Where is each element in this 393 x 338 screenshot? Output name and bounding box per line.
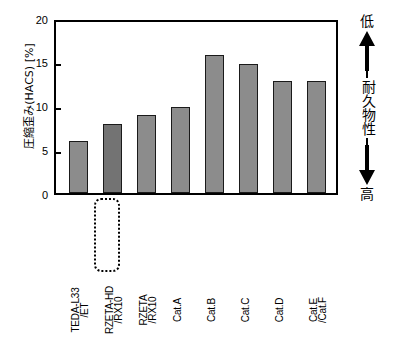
x-tick-label-rzeta-hd-rx10: RZETA-HD /RX10	[105, 273, 123, 338]
x-tick-label-cat-d: Cat.D	[275, 273, 293, 338]
bar-rzeta-hd-rx10	[103, 124, 122, 193]
x-tick-label-cat-c: Cat.C	[241, 273, 259, 338]
y-tick-label-0: 0	[22, 190, 48, 200]
annotation-top-label: 低	[344, 14, 390, 29]
x-tick-label-teda-l33-et: TEDA-L33 /ET	[71, 273, 89, 338]
bar-cat-c	[239, 64, 258, 193]
x-tick-label-cat-e-cat-f: Cat.E /Cat.F	[309, 273, 327, 338]
bar-cat-d	[273, 81, 292, 193]
down-arrow-icon	[357, 145, 377, 187]
annotation-vertical-holder: 耐久物性	[344, 71, 390, 145]
y-tick-label-20: 20	[22, 15, 48, 25]
y-tick-label-10: 10	[22, 102, 48, 112]
x-tick-label-rzeta-rx10: RZETA /RX10	[139, 273, 157, 338]
y-tick-mark-15	[56, 64, 61, 66]
up-arrow-icon	[357, 29, 377, 71]
plot-inner	[56, 22, 336, 193]
bar-cat-a	[171, 107, 190, 193]
bar-rzeta-rx10	[137, 115, 156, 193]
annotation-middle: 耐久物性	[344, 71, 390, 145]
y-tick-label-5: 5	[22, 146, 48, 156]
bar-cat-b	[205, 55, 224, 193]
annotation-bottom-label: 高	[344, 187, 390, 202]
annotation-vertical-label: 耐久物性	[360, 78, 375, 138]
x-tick-label-cat-a: Cat.A	[173, 273, 191, 338]
x-tick-label-cat-b: Cat.B	[207, 273, 225, 338]
x-axis-tick-labels: TEDA-L33 /ET RZETA-HD /RX10 RZETA /RX10 …	[54, 197, 338, 276]
y-tick-mark-10	[56, 108, 61, 110]
plot-area	[54, 20, 338, 195]
highlight-box-rzeta-hd-rx10	[94, 198, 120, 272]
durability-annotation: 低 耐久物性 高	[344, 14, 390, 210]
y-tick-mark-5	[56, 152, 61, 154]
y-axis-tick-labels: 20 15 10 5 0	[20, 0, 48, 276]
bar-teda-l33-et	[69, 141, 88, 193]
bar-cat-e-cat-f	[307, 81, 326, 193]
y-tick-label-15: 15	[22, 58, 48, 68]
